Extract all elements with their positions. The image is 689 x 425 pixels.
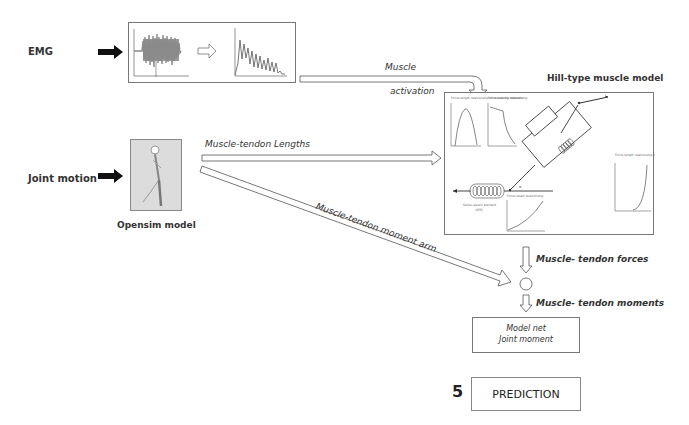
emg-envelope-icon [235,40,285,75]
muscle-fibre-icon [516,94,593,169]
emg-signal-plots [129,23,297,84]
svg-text:(SEE): (SEE) [475,208,483,212]
muscle-tendon-moments-arrow-icon [520,295,532,312]
force-strain-plot-icon: Force-strain relationship [507,194,545,231]
muscle-tendon-lengths-arrow-icon [202,151,441,165]
joint-moment-label: Joint moment [473,334,579,345]
svg-text:Force-strain relationship: Force-strain relationship [507,194,543,198]
hill-model-schematic: Force-length relationship of contractile… [445,93,655,236]
raw-emg-signal-icon [134,34,181,77]
passive-force-length-plot-icon: Force-length relationship of passive ele… [615,153,655,211]
model-net-joint-moment-box: Model net Joint moment [472,317,580,353]
muscle-tendon-lengths-label: Muscle-tendon Lengths [205,139,310,149]
step-number: 5 [452,382,463,401]
muscle-tendon-moments-label: Muscle- tendon moments [536,298,664,308]
prediction-label: PREDICTION [492,388,559,401]
opensim-model-label: Opensim model [117,220,196,230]
summing-junction-icon [520,278,532,290]
hill-model-title: Hill-type muscle model [547,73,663,83]
svg-text:α: α [519,184,522,189]
skeleton-figure-icon [131,140,183,212]
emg-input-arrow-icon [98,45,123,59]
muscle-tendon-forces-label: Muscle- tendon forces [536,254,648,264]
force-velocity-plot-icon: Force-velocity relationship [488,96,528,146]
muscle-activation-label-line2: activation [390,86,435,96]
prediction-box: PREDICTION [471,377,581,411]
joint-motion-input-arrow-icon [98,169,123,183]
svg-text:Series elastic element: Series elastic element [463,203,497,207]
opensim-model-image [130,139,182,211]
svg-text:Force-length relationship of p: Force-length relationship of passive ele… [615,153,655,157]
emg-signal-panel [128,22,296,83]
muscle-tendon-forces-arrow-icon [520,247,532,273]
svg-text:Force-velocity relationship: Force-velocity relationship [488,96,528,100]
model-net-label: Model net [473,323,579,334]
force-length-plot-icon: Force-length relationship of contractile… [451,96,523,146]
hill-model-panel: Force-length relationship of contractile… [444,92,654,235]
process-arrow-icon [198,44,216,58]
muscle-activation-label-line1: Muscle [385,62,416,72]
